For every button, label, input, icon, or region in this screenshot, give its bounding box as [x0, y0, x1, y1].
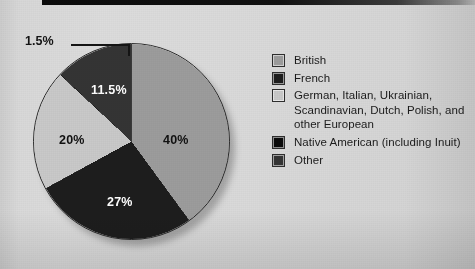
legend-swatch-native-american [272, 136, 285, 149]
pie-slice-label-european: 20% [59, 133, 85, 147]
legend-label-british: British [294, 53, 326, 68]
legend-item-french[interactable]: French [272, 71, 468, 86]
chart-page: 40% 27% 20% 11.5% 1.5% British French Ge… [0, 0, 475, 269]
legend-item-native-american[interactable]: Native American (including Inuit) [272, 135, 468, 150]
pie-slice-label-native-american: 1.5% [25, 34, 54, 48]
page-top-rule [42, 0, 475, 5]
legend-item-european[interactable]: German, Italian, Ukrainian, Scandinavian… [272, 88, 468, 132]
legend-label-other: Other [294, 153, 323, 168]
pie-slice-label-british: 40% [163, 133, 189, 147]
legend-swatch-other [272, 154, 285, 167]
legend-item-british[interactable]: British [272, 53, 468, 68]
pie-slice-label-other: 11.5% [91, 83, 127, 97]
legend-label-european: German, Italian, Ukrainian, Scandinavian… [294, 88, 468, 132]
legend-swatch-british [272, 54, 285, 67]
legend-item-other[interactable]: Other [272, 153, 468, 168]
legend: British French German, Italian, Ukrainia… [272, 53, 468, 170]
pie-slice-label-french: 27% [107, 195, 133, 209]
legend-label-native-american: Native American (including Inuit) [294, 135, 461, 150]
pie-chart: 40% 27% 20% 11.5% [33, 43, 235, 245]
callout-leader-line-vertical [128, 44, 130, 56]
legend-swatch-french [272, 72, 285, 85]
legend-swatch-european [272, 89, 285, 102]
callout-leader-line-horizontal [71, 44, 130, 46]
legend-label-french: French [294, 71, 330, 86]
